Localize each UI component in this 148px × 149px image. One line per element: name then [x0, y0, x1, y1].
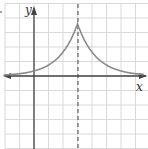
y-axis-label: y: [25, 4, 32, 16]
function-curve: [4, 24, 145, 75]
x-axis-label: x: [136, 81, 143, 93]
function-graph: [0, 0, 148, 149]
